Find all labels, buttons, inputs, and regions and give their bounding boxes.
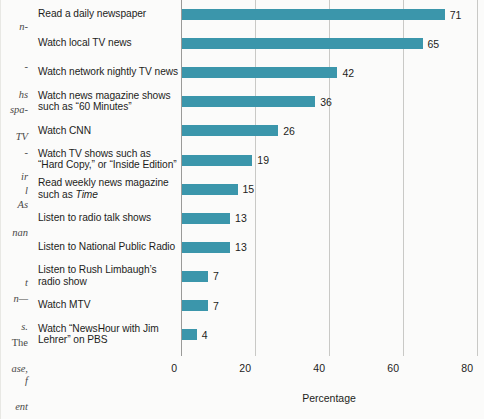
figure-page: n--hsspa-TV-irlAsnantn—s.Thease,fent 716…	[0, 0, 484, 419]
category-label-line: Read weekly news magazine	[38, 177, 180, 189]
bar	[182, 96, 315, 107]
category-label-line: Watch news magazine shows	[38, 90, 180, 102]
category-label: Read a daily newspaper	[38, 8, 180, 20]
category-label-line: Watch MTV	[38, 299, 180, 311]
x-tick-label: 60	[387, 362, 403, 374]
bar	[182, 329, 197, 340]
category-label-line: Watch “NewsHour with Jim	[38, 323, 180, 335]
category-label-line: Listen to radio talk shows	[38, 212, 180, 224]
x-axis-title: Percentage	[181, 392, 477, 404]
category-label: Watch MTV	[38, 299, 180, 311]
category-label-line: such as “60 Minutes”	[38, 101, 180, 113]
category-label: Watch CNN	[38, 125, 180, 137]
x-tick-label: 0	[171, 362, 181, 374]
category-label: Listen to radio talk shows	[38, 212, 180, 224]
bar	[182, 155, 252, 166]
category-label-line: such as Time	[38, 189, 180, 201]
bar	[182, 125, 278, 136]
bar-value-label: 13	[235, 213, 247, 224]
category-label-line: Lehrer” on PBS	[38, 334, 180, 346]
gridline	[403, 0, 404, 356]
bar-value-label: 42	[342, 68, 354, 79]
category-label-line: Read a daily newspaper	[38, 8, 180, 20]
category-label: Watch “NewsHour with JimLehrer” on PBS	[38, 323, 180, 346]
bar	[182, 9, 445, 20]
category-label-line: Watch TV shows such as	[38, 148, 180, 160]
category-label: Watch TV shows such as“Hard Copy,” or “I…	[38, 148, 180, 171]
bar-value-label: 7	[213, 271, 219, 282]
bar-value-label: 7	[213, 301, 219, 312]
bar	[182, 38, 423, 49]
gridline	[477, 0, 478, 356]
category-label-line: Listen to National Public Radio	[38, 241, 180, 253]
category-label: Watch network nightly TV news	[38, 66, 180, 78]
category-label-line: “Hard Copy,” or “Inside Edition”	[38, 159, 180, 171]
x-tick-label: 40	[313, 362, 329, 374]
bar	[182, 184, 238, 195]
category-label-line: Watch network nightly TV news	[38, 66, 180, 78]
x-tick-label: 20	[239, 362, 255, 374]
bar-value-label: 19	[257, 155, 269, 166]
bar-value-label: 26	[283, 126, 295, 137]
x-tick-label: 80	[461, 362, 477, 374]
category-label-line: Listen to Rush Limbaugh’s	[38, 264, 180, 276]
bar	[182, 242, 230, 253]
category-label: Listen to Rush Limbaugh’sradio show	[38, 264, 180, 287]
gridline	[255, 0, 256, 356]
category-label: Read weekly news magazinesuch as Time	[38, 177, 180, 200]
bar-value-label: 71	[450, 10, 462, 21]
category-label-line: Watch CNN	[38, 125, 180, 137]
bar	[182, 213, 230, 224]
bar-value-label: 65	[428, 39, 440, 50]
category-label: Listen to National Public Radio	[38, 241, 180, 253]
category-label-line: radio show	[38, 276, 180, 288]
bar-value-label: 15	[243, 184, 255, 195]
category-label: Watch news magazine showssuch as “60 Min…	[38, 90, 180, 113]
gridline	[329, 0, 330, 356]
bar-value-label: 36	[320, 97, 332, 108]
bar-value-label: 4	[202, 330, 208, 341]
bar	[182, 67, 337, 78]
category-label: Watch local TV news	[38, 37, 180, 49]
bar-chart: 716542362619151313774 Percentage Read a …	[0, 0, 484, 419]
bar	[182, 271, 208, 282]
plot-area: 716542362619151313774	[181, 0, 477, 356]
category-label-line: Watch local TV news	[38, 37, 180, 49]
bar-value-label: 13	[235, 242, 247, 253]
bar	[182, 300, 208, 311]
